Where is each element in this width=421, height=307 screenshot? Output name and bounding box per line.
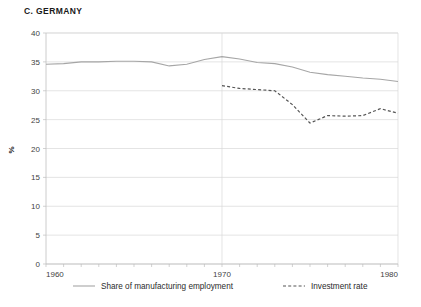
y-tick-label: 40 (31, 29, 40, 38)
x-tick-label: 1970 (213, 270, 231, 279)
y-axis-tick-labels: 0510152025303540 (31, 29, 40, 269)
y-tick-label: 10 (31, 202, 40, 211)
legend-label: Investment rate (311, 282, 368, 291)
y-axis-title: % (7, 146, 16, 153)
legend-label: Share of manufacturing employment (101, 282, 234, 291)
y-tick-label: 30 (31, 87, 40, 96)
x-tick-label: 1980 (380, 270, 398, 279)
chart-figure: C. GERMANY 0510152025303540 196019701980… (0, 0, 421, 307)
y-tick-label: 35 (31, 58, 40, 67)
y-tick-label: 20 (31, 145, 40, 154)
x-tick-label: 1960 (46, 270, 64, 279)
y-tick-label: 25 (31, 116, 40, 125)
axis-tickmarks (43, 33, 398, 267)
y-tick-label: 5 (36, 231, 41, 240)
gridlines (46, 33, 398, 264)
chart-legend: Share of manufacturing employmentInvestm… (73, 282, 368, 291)
x-axis-tick-labels: 196019701980 (46, 270, 399, 279)
line-chart-plot: 0510152025303540 196019701980 Share of m… (0, 0, 421, 307)
y-tick-label: 15 (31, 173, 40, 182)
series-line-dashed (222, 86, 398, 124)
y-tick-label: 0 (36, 260, 41, 269)
